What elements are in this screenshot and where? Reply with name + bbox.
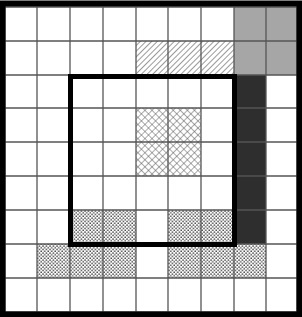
gray-block-cell: [266, 7, 297, 41]
dotted-row-6-cell: [201, 210, 234, 244]
crosshatch-block-cell: [136, 108, 168, 142]
dotted-row-6-cell: [168, 210, 201, 244]
diagonal-hatch-block-cell: [136, 41, 168, 75]
gray-block-cell: [266, 41, 297, 75]
grid-diagram: [0, 0, 302, 317]
dotted-row-6-cell: [70, 210, 103, 244]
dark-column-cell: [234, 75, 266, 108]
dark-column-cell: [234, 210, 266, 244]
diagonal-hatch-block-cell: [201, 41, 234, 75]
dotted-row-7-cell: [70, 244, 103, 278]
dark-column-cell: [234, 108, 266, 142]
dotted-row-7-cell: [37, 244, 70, 278]
dotted-row-6-cell: [103, 210, 136, 244]
crosshatch-block-cell: [136, 142, 168, 176]
gray-block-cell: [234, 7, 266, 41]
dotted-row-7-cell: [103, 244, 136, 278]
dotted-row-7-cell: [201, 244, 234, 278]
dark-column-cell: [234, 176, 266, 210]
crosshatch-block-cell: [168, 108, 201, 142]
dotted-row-7-cell: [168, 244, 201, 278]
diagonal-hatch-block-cell: [168, 41, 201, 75]
crosshatch-block-cell: [168, 142, 201, 176]
dark-column-cell: [234, 142, 266, 176]
gray-block-cell: [234, 41, 266, 75]
dotted-row-7-cell: [234, 244, 266, 278]
